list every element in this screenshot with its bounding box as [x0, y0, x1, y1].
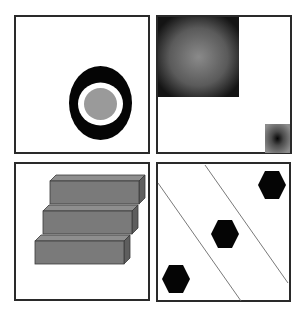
concentric-ring-icon: [69, 66, 132, 140]
hexagons-icon: [162, 171, 286, 293]
gradient-squares-icon: [158, 17, 290, 153]
hexagon-top-right: [258, 171, 286, 199]
figure-canvas: [0, 0, 303, 320]
staircase-icon: [35, 175, 145, 264]
hexagon-bottom-left: [162, 265, 190, 293]
hexagon-middle: [211, 220, 239, 248]
